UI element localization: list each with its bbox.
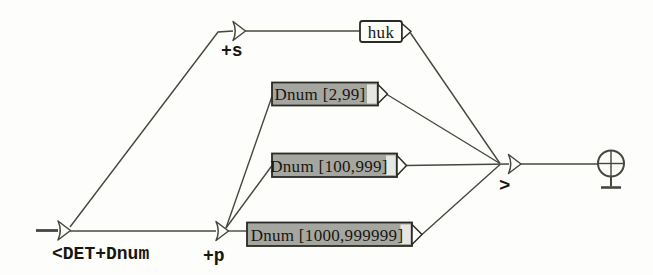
box-dnum-small: Dnum [2,99] — [272, 83, 388, 106]
output-node — [509, 155, 522, 174]
box-dnum-small-tip — [378, 85, 388, 104]
box-dnum-medium-label: Dnum [100,999] — [270, 157, 388, 176]
edge-dnum-large-to-output — [422, 165, 500, 235]
output-node-label: > — [499, 175, 510, 197]
edge-dnum-medium-to-output — [406, 164, 509, 166]
box-huk: huk — [360, 21, 411, 42]
edge-huk-to-output — [411, 33, 501, 164]
edge-plus-p-to-dnum-small — [226, 95, 273, 228]
graph-figure: huk Dnum [2,99] Dnum [100,999] Dnum [100… — [0, 0, 653, 275]
box-dnum-large-label: Dnum [1000,999999] — [251, 226, 404, 245]
plus-p-label: +p — [203, 246, 225, 266]
box-dnum-large-tip — [412, 225, 422, 245]
edge-dnum-small-to-output — [387, 95, 500, 164]
graph-canvas: huk Dnum [2,99] Dnum [100,999] Dnum [100… — [0, 0, 653, 275]
box-huk-label: huk — [368, 23, 395, 42]
final-node — [598, 151, 624, 188]
start-node-label: <DET+Dnum — [52, 244, 149, 264]
edge-start-to-plus-s — [70, 31, 233, 227]
box-dnum-medium-tip — [397, 156, 407, 176]
box-dnum-small-label: Dnum [2,99] — [274, 85, 365, 104]
box-huk-tip — [402, 24, 411, 40]
box-dnum-medium: Dnum [100,999] — [270, 154, 406, 178]
plus-s-node — [233, 22, 246, 41]
plus-s-label: +s — [221, 41, 243, 61]
box-dnum-small-band — [367, 85, 377, 104]
box-dnum-large: Dnum [1000,999999] — [247, 223, 422, 247]
start-node — [58, 221, 71, 240]
edge-plus-p-to-dnum-medium — [226, 166, 272, 229]
